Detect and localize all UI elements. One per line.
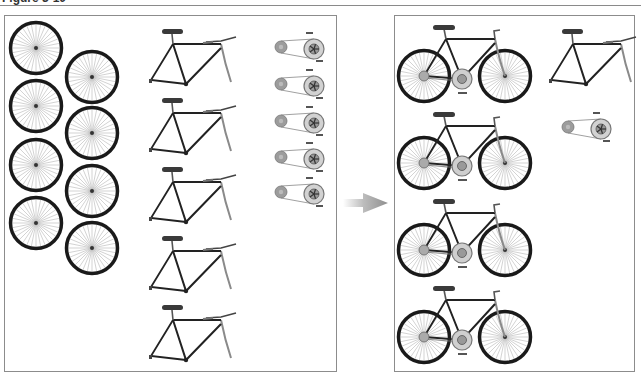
frame-icon	[149, 98, 236, 155]
assembled-bikes	[399, 25, 531, 363]
bicycle-icon	[399, 286, 531, 363]
diagram-canvas	[0, 0, 641, 377]
wheel-icon	[11, 23, 62, 74]
bicycle-icon	[399, 25, 531, 102]
frame-icon	[149, 236, 236, 293]
drivetrain-icon	[275, 177, 324, 207]
bicycle-icon	[399, 199, 531, 276]
spare-frame-icon	[549, 29, 636, 86]
drivetrain-icon	[275, 106, 324, 136]
wheel-icon	[67, 52, 118, 103]
wheel-icon	[11, 81, 62, 132]
bicycle-icon	[399, 112, 531, 189]
assembly-arrow-icon	[343, 193, 388, 213]
wheel-icon	[67, 108, 118, 159]
spare-parts	[549, 29, 636, 142]
wheel-icon	[11, 140, 62, 191]
drivetrain-icon	[275, 142, 324, 172]
loose-wheels	[11, 23, 118, 274]
frame-icon	[149, 29, 236, 86]
loose-drivetrains	[275, 32, 324, 207]
drivetrain-icon	[275, 32, 324, 62]
spare-drivetrain-icon	[562, 112, 611, 142]
wheel-icon	[67, 223, 118, 274]
loose-frames	[149, 29, 236, 362]
wheel-icon	[11, 198, 62, 249]
drivetrain-icon	[275, 69, 324, 99]
frame-icon	[149, 167, 236, 224]
frame-icon	[149, 305, 236, 362]
wheel-icon	[67, 166, 118, 217]
